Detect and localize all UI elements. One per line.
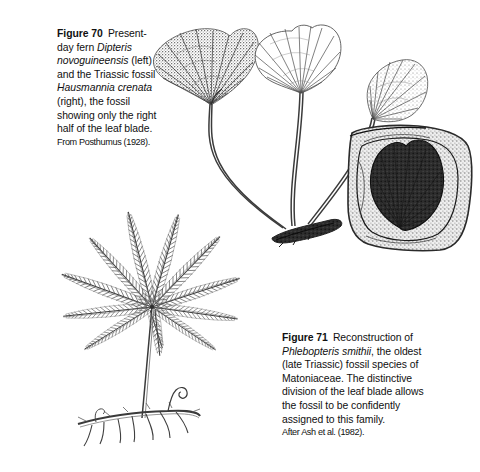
dipteris-leaf-outline xyxy=(255,25,341,93)
figure-71-source: After Ash et al. (1982). xyxy=(282,426,430,440)
figure-71-species-1: Phlebopteris smithii xyxy=(282,346,371,357)
dipteris-group xyxy=(153,25,427,247)
crozier-icon xyxy=(168,388,187,411)
figure-71-text-2: , the oldest (late Triassic) fossil spec… xyxy=(282,346,424,425)
fossil-rock-slab xyxy=(348,125,472,250)
phlebopteris-frond xyxy=(60,210,242,418)
figure-71-caption: Figure 71 Reconstruction of Phlebopteris… xyxy=(282,331,430,440)
figure-page: Figure 70 Present-day fern Dipteris novo… xyxy=(0,0,480,472)
figure-71-label: Figure 71 xyxy=(282,332,333,343)
figure-70-text-3: (right), the fossil showing only the rig… xyxy=(57,96,156,134)
dipteris-leaf-shaded xyxy=(153,29,258,105)
figure-71-text-1: Reconstruction of xyxy=(333,332,413,343)
dipteris-rhizome xyxy=(272,219,342,247)
hausmannia-half-leaf xyxy=(367,60,428,122)
figure-70-species-2: Hausmannia crenata xyxy=(57,82,152,93)
dipteris-stipes xyxy=(209,92,375,229)
phlebopteris-rhizome xyxy=(78,388,200,446)
figure-70-source: From Posthumus (1928). xyxy=(57,136,161,150)
figure-70-caption: Figure 70 Present-day fern Dipteris novo… xyxy=(57,27,161,149)
figure-70-label: Figure 70 xyxy=(57,28,108,39)
